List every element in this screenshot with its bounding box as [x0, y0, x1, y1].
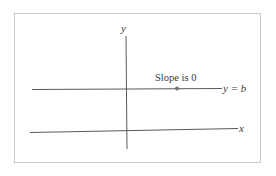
- slope-annotation: Slope is 0: [155, 73, 196, 84]
- y-axis: [126, 36, 127, 149]
- line-equation-label: y = b: [223, 83, 246, 94]
- x-axis-label: x: [239, 123, 244, 134]
- horizontal-line-y-equals-b: [32, 89, 222, 90]
- x-axis: [30, 129, 238, 133]
- y-axis-label: y: [121, 23, 126, 34]
- point-marker: [175, 87, 179, 91]
